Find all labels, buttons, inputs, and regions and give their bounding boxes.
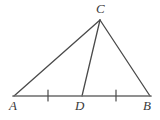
vertex-label-C: C	[96, 2, 105, 15]
segment-CB	[100, 20, 150, 96]
vertex-label-B: B	[143, 99, 151, 112]
vertex-label-D: D	[75, 99, 84, 112]
segment-CD	[82, 20, 100, 96]
geometry-figure: A D B C	[0, 0, 160, 120]
vertex-label-A: A	[9, 99, 17, 112]
segment-AC	[14, 20, 100, 96]
